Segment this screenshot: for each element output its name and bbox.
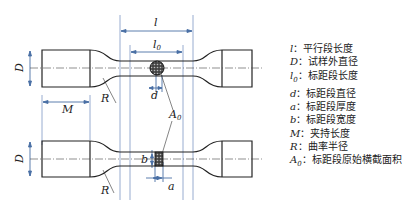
legend-separator: ： bbox=[298, 141, 308, 152]
legend-text: 标距段厚度 bbox=[306, 101, 356, 112]
label-l: l bbox=[154, 16, 158, 29]
legend-item: a：标距段厚度 bbox=[290, 100, 402, 113]
legend-item: l：平行段长度 bbox=[290, 42, 402, 55]
label-R-bottom: R bbox=[100, 184, 109, 197]
cross-section-circle bbox=[150, 61, 164, 75]
symbol-legend: l：平行段长度D：试样外直径l0：标距段长度d：标距段直径a：标距段厚度b：标距… bbox=[290, 42, 402, 172]
leader-lines bbox=[103, 74, 173, 193]
legend-text: 平行段长度 bbox=[303, 43, 353, 54]
legend-text: 标距段长度 bbox=[308, 70, 358, 81]
legend-separator: ： bbox=[296, 101, 306, 112]
label-R-top: R bbox=[100, 92, 109, 105]
cross-section-rect bbox=[155, 152, 163, 166]
legend-item: A0：标距段原始横截面积 bbox=[290, 153, 402, 171]
legend-text: 标距段原始横截面积 bbox=[312, 154, 402, 165]
legend-item: b：标距段宽度 bbox=[290, 113, 402, 126]
legend-separator: ： bbox=[296, 88, 306, 99]
label-a: a bbox=[168, 180, 175, 193]
label-D-top: D bbox=[13, 63, 26, 73]
legend-separator: ： bbox=[298, 70, 308, 81]
legend-symbol: A0 bbox=[290, 154, 302, 165]
legend-symbol: D bbox=[290, 56, 298, 67]
legend-separator: ： bbox=[300, 128, 310, 139]
legend-item: d：标距段直径 bbox=[290, 87, 402, 100]
legend-text: 标距段宽度 bbox=[306, 114, 356, 125]
legend-separator: ： bbox=[302, 154, 312, 165]
legend-item: D：试样外直径 bbox=[290, 55, 402, 68]
label-D-bottom: D bbox=[13, 154, 26, 164]
legend-item: R：曲率半径 bbox=[290, 140, 402, 153]
label-l0: l0 bbox=[153, 38, 162, 52]
label-A0: A0 bbox=[168, 108, 182, 122]
specimen-diagram: l l0 D D d M R R A0 b a l：平行段长度D：试样外直径l0… bbox=[0, 0, 417, 211]
legend-separator: ： bbox=[298, 56, 308, 67]
legend-separator: ： bbox=[296, 114, 306, 125]
label-M: M bbox=[61, 103, 74, 116]
legend-text: 试样外直径 bbox=[308, 56, 358, 67]
label-d: d bbox=[151, 89, 158, 102]
legend-text: 标距段直径 bbox=[306, 88, 356, 99]
legend-separator: ： bbox=[293, 43, 303, 54]
legend-symbol: M bbox=[290, 128, 300, 139]
legend-text: 夹持长度 bbox=[310, 128, 350, 139]
legend-item: M：夹持长度 bbox=[290, 127, 402, 140]
round-specimen bbox=[42, 50, 252, 87]
legend-item: l0：标距段长度 bbox=[290, 69, 402, 87]
legend-text: 曲率半径 bbox=[308, 141, 348, 152]
legend-symbol: l0 bbox=[290, 70, 298, 81]
legend-symbol: R bbox=[290, 141, 298, 152]
label-b: b bbox=[141, 153, 148, 166]
